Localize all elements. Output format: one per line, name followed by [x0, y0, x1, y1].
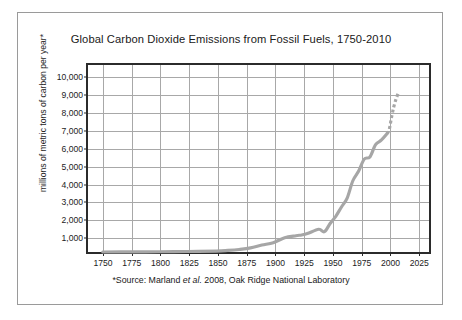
y-tick-mark: [84, 220, 88, 221]
x-tick-label: 1900: [266, 258, 285, 268]
data-series-layer: [88, 65, 429, 252]
x-tick-label: 1825: [180, 258, 199, 268]
x-tick-mark: [275, 252, 276, 256]
gridline-horizontal: [88, 77, 429, 78]
gridline-horizontal: [88, 167, 429, 168]
gridline-vertical: [218, 65, 219, 252]
gridline-vertical: [362, 65, 363, 252]
y-tick-label: 4,000: [61, 180, 83, 190]
x-tick-mark: [160, 252, 161, 256]
y-tick-mark: [84, 202, 88, 203]
gridline-vertical: [390, 65, 391, 252]
x-tick-label: 1975: [352, 258, 371, 268]
y-tick-label: 2,000: [61, 215, 83, 225]
gridline-horizontal: [88, 131, 429, 132]
y-tick-label: 6,000: [61, 144, 83, 154]
plot-area: 1,0002,0003,0004,0005,0006,0007,0008,000…: [86, 63, 431, 254]
gridline-horizontal: [88, 113, 429, 114]
chart-title: Global Carbon Dioxide Emissions from Fos…: [18, 33, 444, 45]
figure-frame: Global Carbon Dioxide Emissions from Fos…: [17, 12, 443, 305]
y-tick-label: 1,000: [61, 233, 83, 243]
y-tick-mark: [84, 148, 88, 149]
gridline-vertical: [103, 65, 104, 252]
x-tick-label: 2025: [410, 258, 429, 268]
y-tick-mark: [84, 238, 88, 239]
x-tick-mark: [103, 252, 104, 256]
source-note: *Source: Marland et al. 2008, Oak Ridge …: [18, 275, 444, 285]
gridline-horizontal: [88, 238, 429, 239]
gridline-vertical: [160, 65, 161, 252]
x-tick-label: 1925: [295, 258, 314, 268]
gridline-vertical: [419, 65, 420, 252]
x-tick-mark: [390, 252, 391, 256]
source-note-prefix: *Source: Marland: [112, 275, 182, 285]
gridline-horizontal: [88, 95, 429, 96]
x-tick-label: 1950: [323, 258, 342, 268]
y-axis-title: millions of metric tons of carbon per ye…: [38, 18, 48, 208]
y-tick-label: 8,000: [61, 108, 83, 118]
source-note-suffix: 2008, Oak Ridge National Laboratory: [202, 275, 350, 285]
y-tick-mark: [84, 166, 88, 167]
y-tick-label: 9,000: [61, 90, 83, 100]
x-tick-mark: [362, 252, 363, 256]
y-tick-mark: [84, 95, 88, 96]
y-tick-label: 5,000: [61, 162, 83, 172]
gridline-horizontal: [88, 149, 429, 150]
y-tick-label: 10,000: [57, 72, 83, 82]
x-tick-label: 2000: [381, 258, 400, 268]
x-tick-label: 1875: [237, 258, 256, 268]
y-tick-label: 3,000: [61, 197, 83, 207]
gridline-vertical: [132, 65, 133, 252]
x-tick-mark: [132, 252, 133, 256]
gridline-vertical: [247, 65, 248, 252]
x-tick-label: 1775: [122, 258, 141, 268]
gridline-vertical: [275, 65, 276, 252]
y-tick-mark: [84, 77, 88, 78]
x-tick-mark: [419, 252, 420, 256]
x-tick-label: 1750: [93, 258, 112, 268]
source-note-italic: et al.: [183, 275, 202, 285]
gridline-vertical: [304, 65, 305, 252]
gridline-horizontal: [88, 220, 429, 221]
gridline-vertical: [189, 65, 190, 252]
x-tick-mark: [333, 252, 334, 256]
y-tick-mark: [84, 131, 88, 132]
gridline-horizontal: [88, 202, 429, 203]
gridline-vertical: [333, 65, 334, 252]
gridline-horizontal: [88, 185, 429, 186]
x-tick-mark: [218, 252, 219, 256]
y-tick-mark: [84, 184, 88, 185]
y-tick-mark: [84, 113, 88, 114]
x-tick-mark: [304, 252, 305, 256]
x-tick-mark: [189, 252, 190, 256]
y-tick-label: 7,000: [61, 126, 83, 136]
x-tick-label: 1800: [151, 258, 170, 268]
x-tick-mark: [247, 252, 248, 256]
emissions-curve-solid: [103, 134, 387, 252]
x-tick-label: 1850: [208, 258, 227, 268]
